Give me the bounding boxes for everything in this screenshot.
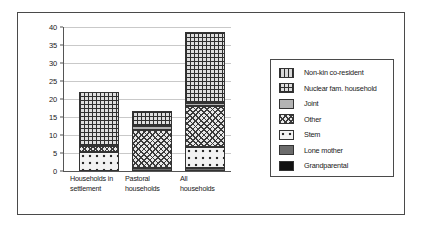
legend-item[interactable]: Nuclear fam. household: [271, 81, 393, 97]
legend-swatch-icon: [279, 130, 294, 140]
y-axis-tick-label: 5: [53, 149, 57, 158]
y-axis-tick-label: 20: [49, 95, 57, 104]
bar-3[interactable]: [185, 32, 225, 171]
x-axis-label-line: All: [180, 174, 236, 184]
legend-swatch-icon: [279, 99, 294, 109]
x-axis-label-line: Households in: [70, 174, 126, 184]
x-axis-label-line: settlement: [70, 184, 126, 194]
bar-segment[interactable]: [185, 147, 225, 169]
legend-label: Other: [304, 115, 321, 124]
gridline: [64, 27, 231, 28]
x-axis-label-1: Households insettlement: [70, 174, 126, 193]
bar-segment[interactable]: [132, 168, 172, 171]
bar-segment[interactable]: [79, 146, 119, 152]
figure-frame: 4035302520151050 Households insettlement…: [17, 12, 405, 215]
plot-area: [64, 27, 231, 171]
legend-swatch-icon: [279, 68, 294, 78]
bar-segment[interactable]: [185, 106, 225, 146]
plot-wrapper: 4035302520151050 Households insettlement…: [38, 27, 253, 205]
legend-label: Non-kin co-resident: [304, 68, 363, 77]
bar-segment[interactable]: [132, 111, 172, 125]
x-axis-label-line: households: [180, 184, 236, 194]
legend-label: Stem: [304, 130, 320, 139]
legend-swatch-icon: [279, 145, 294, 155]
bar-segment[interactable]: [185, 32, 225, 103]
y-axis-tick-label: 30: [49, 59, 57, 68]
legend-item[interactable]: Stem: [271, 127, 393, 143]
y-axis: 4035302520151050: [38, 27, 60, 171]
x-axis-category-labels: Households insettlementPastoralhousehold…: [64, 174, 231, 204]
bar-segment[interactable]: [132, 126, 172, 130]
x-axis-label-2: Pastoralhouseholds: [125, 174, 181, 193]
legend-item[interactable]: Joint: [271, 96, 393, 112]
bar-segment[interactable]: [79, 92, 119, 146]
legend-label: Grandparental: [304, 161, 348, 170]
bar-segment[interactable]: [185, 103, 225, 107]
chart-legend: Non-kin co-residentNuclear fam. househol…: [270, 59, 394, 177]
bar-segment[interactable]: [185, 168, 225, 171]
x-axis-line: [63, 171, 231, 172]
legend-item[interactable]: Other: [271, 112, 393, 128]
legend-item[interactable]: Lone mother: [271, 143, 393, 159]
y-axis-tick-label: 25: [49, 77, 57, 86]
bar-1[interactable]: [79, 92, 119, 171]
y-axis-tick-label: 40: [49, 23, 57, 32]
legend-swatch-icon: [279, 114, 294, 124]
bar-segment[interactable]: [79, 152, 119, 171]
y-axis-tick-label: 10: [49, 131, 57, 140]
legend-item[interactable]: Non-kin co-resident: [271, 65, 393, 81]
legend-label: Joint: [304, 99, 318, 108]
legend-swatch-icon: [279, 161, 294, 171]
bar-2[interactable]: [132, 111, 172, 171]
y-axis-tick-label: 35: [49, 41, 57, 50]
x-axis-label-3: Allhouseholds: [180, 174, 236, 193]
y-axis-tick-label: 15: [49, 113, 57, 122]
y-axis-tick-label: 0: [53, 167, 57, 176]
x-axis-label-line: Pastoral: [125, 174, 181, 184]
legend-label: Nuclear fam. household: [304, 84, 377, 93]
bar-segment[interactable]: [132, 130, 172, 168]
legend-swatch-icon: [279, 83, 294, 93]
legend-item[interactable]: Grandparental: [271, 158, 393, 174]
legend-label: Lone mother: [304, 146, 343, 155]
x-axis-label-line: households: [125, 184, 181, 194]
